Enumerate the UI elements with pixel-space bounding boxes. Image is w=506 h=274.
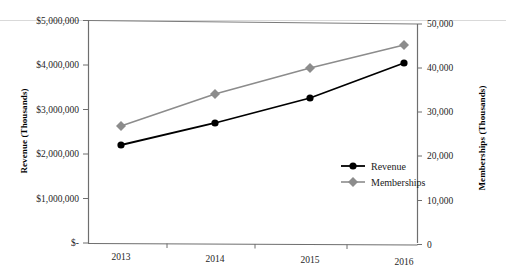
- x-category-label-2015: 2015: [301, 255, 320, 265]
- left-tick-label-1000000: $1,000,000: [36, 194, 79, 204]
- revenue-point-2016: [400, 59, 407, 66]
- x-category-label-2014: 2014: [206, 254, 225, 264]
- chart-container: $5,000,000 $4,000,000 $3,000,000 $2,000,…: [0, 0, 506, 274]
- legend-item-memberships[interactable]: Memberships: [341, 177, 426, 188]
- legend-label-revenue: Revenue: [371, 161, 407, 172]
- x-category-label-2016: 2016: [395, 257, 414, 267]
- left-tick-label-2000000: $2,000,000: [36, 149, 79, 159]
- left-tick-label-5000000: $5,000,000: [36, 16, 79, 26]
- right-tick-label-40000: 40,000: [427, 63, 453, 73]
- right-tick-label-0: 0: [427, 240, 432, 250]
- left-axis-title: Revenue (Thousands): [19, 88, 29, 173]
- chart-background: [0, 0, 506, 274]
- dual-axis-line-chart: $5,000,000 $4,000,000 $3,000,000 $2,000,…: [0, 0, 506, 274]
- legend-label-memberships: Memberships: [371, 177, 426, 188]
- x-category-label-2013: 2013: [112, 252, 131, 262]
- right-tick-label-10000: 10,000: [427, 196, 453, 206]
- revenue-point-2014: [211, 119, 218, 126]
- right-tick-label-50000: 50,000: [427, 19, 453, 29]
- right-axis-title: Memberships (Thousands): [477, 85, 487, 190]
- left-tick-label-3000000: $3,000,000: [36, 105, 79, 115]
- right-tick-label-30000: 30,000: [427, 107, 453, 117]
- revenue-point-2015: [306, 94, 313, 101]
- legend-marker-revenue-circle-icon: [349, 162, 356, 169]
- revenue-point-2013: [117, 141, 124, 148]
- left-tick-label-0: $-: [71, 238, 79, 248]
- right-tick-label-20000: 20,000: [427, 151, 453, 161]
- left-tick-label-4000000: $4,000,000: [36, 60, 79, 70]
